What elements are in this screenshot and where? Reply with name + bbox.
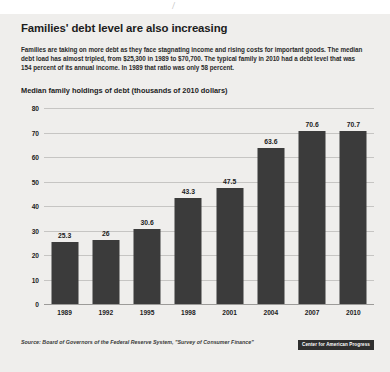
bar-value-label: 70.7 [347,121,360,128]
x-axis-tick-label: 2004 [264,309,279,316]
y-axis-tick-label: 70 [32,129,39,136]
bar [299,131,326,304]
y-axis-tick-label: 20 [32,252,39,259]
bar-group: 63.62004 [250,108,291,304]
chart-page: / Families' debt level are also increasi… [0,0,390,372]
x-axis-tick-label: 1995 [140,309,155,316]
bar-group: 47.52001 [209,108,250,304]
organization-logo-badge: Center for American Progress [298,340,374,350]
bar-value-label: 26 [102,230,110,237]
scan-top-band [0,0,390,14]
bar-value-label: 30.6 [141,219,154,226]
bar-value-label: 47.5 [223,178,236,185]
bar-group: 70.62007 [292,108,333,304]
x-axis-tick-label: 2007 [305,309,320,316]
bar [134,229,161,304]
bar [51,242,78,304]
bar-group: 43.31998 [168,108,209,304]
y-axis-tick-label: 30 [32,227,39,234]
page-title: Families' debt level are also increasing [21,22,361,34]
y-axis-tick-label: 50 [32,178,39,185]
bar-group: 25.31989 [44,108,85,304]
chart-title: Median family holdings of debt (thousand… [21,86,361,95]
y-axis-tick-label: 60 [32,154,39,161]
y-axis-tick-label: 40 [32,203,39,210]
source-note: Source: Board of Governors of the Federa… [21,339,254,345]
scan-artifact-mark: / [172,1,182,10]
bar-group: 70.72010 [333,108,374,304]
bar-value-label: 70.6 [306,121,319,128]
gridline: 0 [44,304,374,305]
x-axis-tick-label: 1998 [181,309,196,316]
summary-paragraph: Families are taking on more debt as they… [21,45,367,73]
chart-plot-area: 01020304050607080 25.3198926199230.61995… [44,108,374,304]
x-axis-tick-label: 1989 [57,309,72,316]
bar [175,198,202,304]
y-axis-tick-label: 10 [32,276,39,283]
bar [216,188,243,304]
y-axis-tick-label: 0 [35,301,39,308]
bar-series: 25.3198926199230.6199543.3199847.5200163… [44,108,374,304]
bar-value-label: 25.3 [58,232,71,239]
bar [92,240,119,304]
bar-group: 30.61995 [127,108,168,304]
x-axis-tick-label: 2010 [346,309,361,316]
bar [257,148,284,304]
x-axis-tick-label: 1992 [99,309,114,316]
y-axis-tick-label: 80 [32,105,39,112]
bar-value-label: 63.6 [264,138,277,145]
bar [340,131,367,304]
bar-value-label: 43.3 [182,188,195,195]
bar-group: 261992 [85,108,126,304]
x-axis-tick-label: 2001 [222,309,237,316]
